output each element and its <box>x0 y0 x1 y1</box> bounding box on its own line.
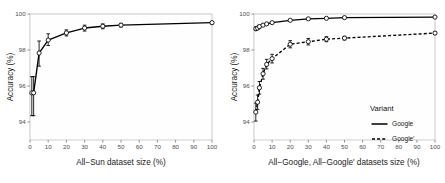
x-tick-label: 100 <box>430 143 441 150</box>
data-point-marker <box>306 40 310 44</box>
x-axis-title-left: All−Sun dataset size (%) <box>76 158 166 167</box>
x-tick-label: 60 <box>359 143 366 150</box>
y-tick-labels-left: 100989694 <box>15 10 26 125</box>
data-point-marker <box>261 72 265 76</box>
data-point-marker <box>254 110 258 114</box>
x-tick-label: 10 <box>269 143 276 150</box>
x-axis-title-right: All−Google, All−Google' datasets size (%… <box>268 158 420 167</box>
x-tick-label: 70 <box>377 143 384 150</box>
legend-label-google-prime: Google' <box>392 135 415 143</box>
x-tick-label: 40 <box>323 143 330 150</box>
data-point-marker <box>288 18 292 22</box>
data-point-marker <box>256 100 260 104</box>
y-tick-label: 94 <box>19 118 26 125</box>
data-point-marker <box>342 16 346 20</box>
x-tick-label: 60 <box>136 143 143 150</box>
legend-label-google: Google <box>392 120 414 128</box>
chart-panel-right: 100989694 0102030405060708090100 Variant… <box>222 0 445 183</box>
y-axis-title-right: Accuracy (%) <box>230 52 239 101</box>
y-axis-title-left: Accuracy (%) <box>6 52 15 101</box>
y-tick-label: 96 <box>19 82 26 89</box>
x-tick-labels-left: 0102030405060708090100 <box>28 143 217 150</box>
x-tick-label: 0 <box>28 143 32 150</box>
data-point-marker <box>101 24 105 28</box>
data-point-marker <box>288 42 292 46</box>
data-point-marker <box>324 37 328 41</box>
data-point-marker <box>270 57 274 61</box>
x-tick-label: 40 <box>99 143 106 150</box>
y-tick-label: 98 <box>19 46 26 53</box>
data-point-marker <box>306 17 310 21</box>
figure-container: 100989694 0102030405060708090100 All−Sun… <box>0 0 445 183</box>
y-tick-label: 94 <box>243 118 250 125</box>
y-tick-label: 98 <box>243 46 250 53</box>
y-tick-label: 96 <box>243 82 250 89</box>
data-point-marker <box>37 51 41 55</box>
x-tick-label: 50 <box>118 143 125 150</box>
data-point-marker <box>324 16 328 20</box>
data-point-marker <box>265 62 269 66</box>
x-tick-label: 30 <box>81 143 88 150</box>
y-tick-labels-right: 100989694 <box>239 10 250 125</box>
legend-title: Variant <box>370 104 394 113</box>
data-point-marker <box>265 22 269 26</box>
x-tick-label: 100 <box>207 143 218 150</box>
y-tick-label: 100 <box>239 10 250 17</box>
data-point-marker <box>433 15 437 19</box>
data-point-marker <box>32 91 36 95</box>
chart-panel-left: 100989694 0102030405060708090100 All−Sun… <box>0 0 222 183</box>
x-tick-label: 70 <box>154 143 161 150</box>
x-tick-label: 20 <box>287 143 294 150</box>
plot-left-svg: 100989694 0102030405060708090100 All−Sun… <box>0 0 222 183</box>
x-tick-label: 80 <box>172 143 179 150</box>
x-tick-label: 30 <box>305 143 312 150</box>
x-tick-label: 80 <box>395 143 402 150</box>
x-tick-label: 90 <box>413 143 420 150</box>
x-tick-label: 20 <box>63 143 70 150</box>
x-tick-label: 0 <box>252 143 256 150</box>
x-tick-label: 10 <box>45 143 52 150</box>
data-point-marker <box>119 23 123 27</box>
data-point-marker <box>46 38 50 42</box>
x-tick-label: 50 <box>341 143 348 150</box>
data-point-marker <box>257 86 261 90</box>
data-point-marker <box>270 21 274 25</box>
data-point-marker <box>83 26 87 30</box>
data-point-marker <box>342 36 346 40</box>
x-tick-labels-right: 0102030405060708090100 <box>252 143 440 150</box>
y-tick-label: 100 <box>15 10 26 17</box>
data-point-marker <box>210 21 214 25</box>
data-point-marker <box>433 31 437 35</box>
panel-background-left <box>30 14 212 140</box>
x-tick-label: 90 <box>190 143 197 150</box>
data-point-marker <box>64 31 68 35</box>
plot-right-svg: 100989694 0102030405060708090100 Variant… <box>222 0 445 183</box>
